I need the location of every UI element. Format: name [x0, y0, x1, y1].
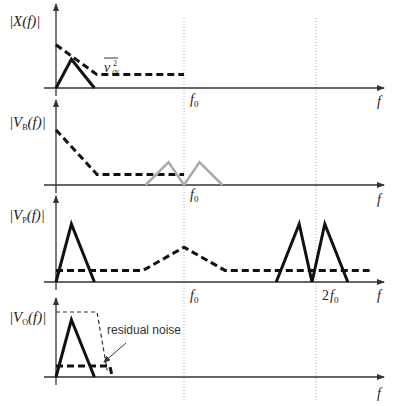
panel-1-f0-label: f0 [190, 92, 199, 109]
svg-text:2: 2 [113, 59, 117, 68]
panel-2-f-label: f [377, 192, 383, 207]
panel-modulated [44, 100, 384, 193]
residual-noise-arrow [104, 343, 126, 362]
panel-3-f0-label: f0 [190, 288, 199, 305]
panel-4-f-label: f [377, 386, 383, 401]
trace-residual-noise [56, 366, 112, 377]
panel-3-f-label: f [377, 288, 383, 303]
panel-1-ylabel: |X(f)| [10, 13, 40, 30]
spectra-diagram: |X(f)| v 2 iN f0 f |VB(f)| f0 f |VP(f)| … [0, 0, 395, 406]
trace-input-noise [56, 45, 184, 75]
panel-input [44, 4, 384, 96]
trace-signal-2f0-lower [276, 224, 312, 282]
panel-output [44, 298, 384, 385]
panel-2-ylabel: |VB(f)| [10, 114, 46, 132]
trace-signal-2f0-upper [312, 224, 348, 282]
svg-text:iN: iN [112, 68, 119, 76]
trace-baseband-signal [56, 224, 94, 282]
input-noise-annotation: v 2 iN [104, 58, 119, 76]
panel-2-f0-label: f0 [190, 187, 199, 204]
panel-1-f-label: f [377, 94, 383, 109]
trace-shifted-noise [56, 247, 370, 270]
residual-noise-label: residual noise [107, 323, 181, 337]
panel-4-ylabel: |VO(f)| [10, 309, 46, 327]
panel-3-ylabel: |VP(f)| [10, 207, 45, 225]
trace-baseband-signal [56, 320, 94, 377]
panel-3-2f0-label: 2f0 [322, 288, 339, 305]
trace-signal [56, 59, 94, 88]
svg-text:v: v [104, 60, 111, 75]
panel-demodulated [44, 196, 384, 290]
